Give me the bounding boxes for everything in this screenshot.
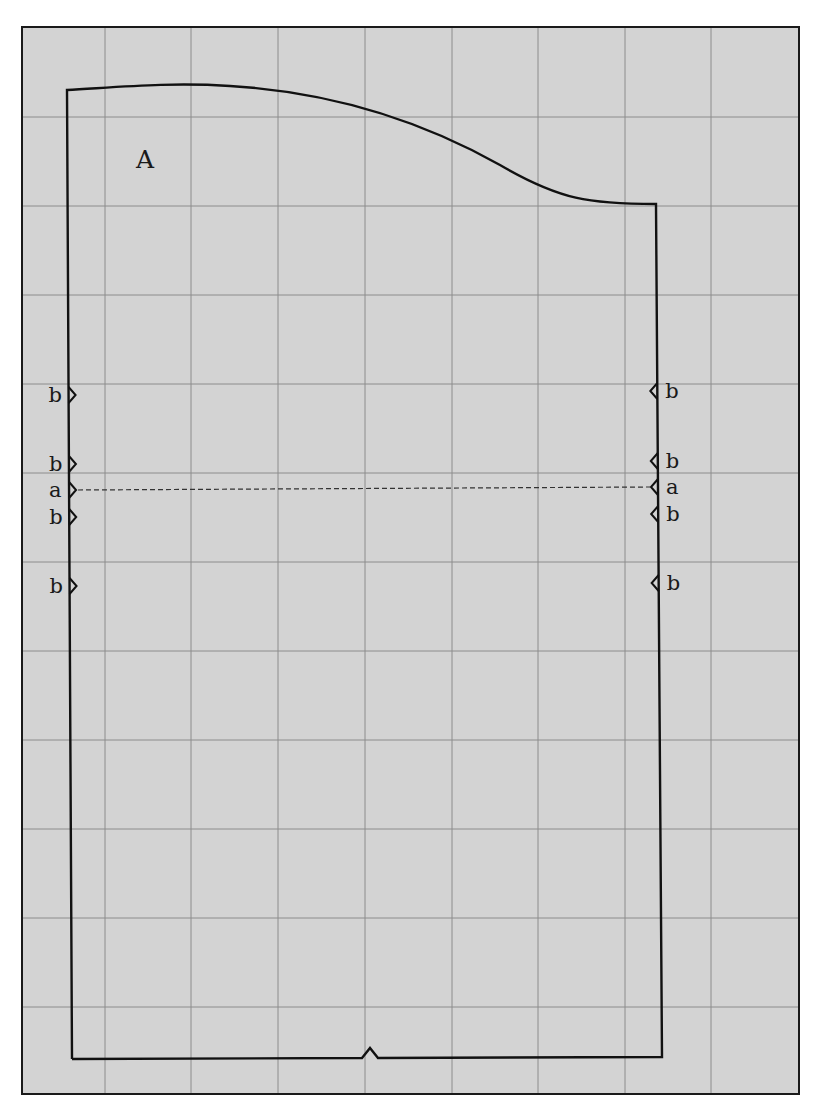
notch-label-right-b: b: [666, 502, 679, 526]
notch-label-left-b: b: [49, 505, 62, 529]
notch-label-left-a: a: [49, 478, 62, 502]
notch-label-right-b: b: [665, 379, 678, 403]
pattern-canvas: bbabbbbabb A: [0, 0, 815, 1096]
notch-label-left-b: b: [49, 452, 62, 476]
notch-label-right-a: a: [666, 475, 679, 499]
notch-label-right-b: b: [667, 571, 680, 595]
notch-label-right-b: b: [666, 449, 679, 473]
grid-background: [22, 27, 799, 1094]
piece-label-a: A: [135, 145, 155, 174]
notch-label-left-b: b: [49, 383, 62, 407]
notch-label-left-b: b: [50, 574, 63, 598]
